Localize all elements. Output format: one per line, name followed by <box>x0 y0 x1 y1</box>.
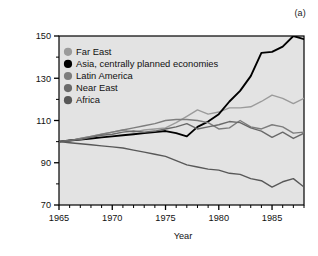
y-tick-label: 150 <box>36 31 51 41</box>
legend-label: Near East <box>76 82 118 93</box>
legend-marker <box>64 72 72 80</box>
panel-label: (a) <box>294 8 306 18</box>
y-tick-label: 130 <box>36 74 51 84</box>
x-tick-label: 1965 <box>49 213 69 223</box>
y-tick-label: 70 <box>41 200 51 210</box>
legend-marker <box>64 48 72 56</box>
x-axis-label: Year <box>58 231 308 241</box>
legend-label: Far East <box>76 46 112 57</box>
legend-marker <box>64 60 72 68</box>
legend-marker <box>64 96 72 104</box>
x-tick-label: 1985 <box>262 213 282 223</box>
legend-label: Africa <box>76 94 101 105</box>
legend-marker <box>64 84 72 92</box>
y-tick-label: 90 <box>41 158 51 168</box>
x-tick-label: 1970 <box>102 213 122 223</box>
line-chart: 196519701975198019857090110130150 Far Ea… <box>0 0 318 256</box>
x-tick-label: 1975 <box>155 213 175 223</box>
figure-container: (a) Per capita food production (arbitrar… <box>0 0 318 256</box>
legend-label: Asia, centrally planned economies <box>76 58 219 69</box>
y-tick-label: 110 <box>36 116 51 126</box>
x-tick-label: 1980 <box>209 213 229 223</box>
legend-label: Latin America <box>76 70 134 81</box>
